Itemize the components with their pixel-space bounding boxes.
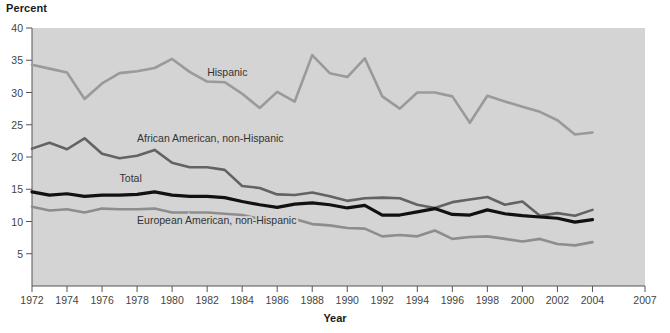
y-axis-tick-label: 15 — [11, 183, 23, 195]
x-axis-tick-label: 2007 — [633, 294, 657, 306]
series-label: European American, non-Hispanic — [137, 214, 296, 226]
x-axis-tick-label: 1978 — [125, 294, 149, 306]
x-axis-tick-label: 1980 — [160, 294, 184, 306]
x-axis-tick-label: 1986 — [266, 294, 290, 306]
y-axis-tick-label: 25 — [11, 119, 23, 131]
x-axis-tick-label: 1996 — [441, 294, 465, 306]
y-axis-tick-label: 20 — [11, 151, 23, 163]
x-axis-tick-label: 1976 — [90, 294, 114, 306]
y-axis-tick-label: 30 — [11, 87, 23, 99]
x-axis-tick-label: 1982 — [195, 294, 219, 306]
graduation-dropout-rate-line-chart: Percent 51015202530354019721974197619781… — [0, 0, 670, 333]
x-axis-tick-label: 2004 — [581, 294, 605, 306]
x-axis-tick-label: 1990 — [336, 294, 360, 306]
series-label: African American, non-Hispanic — [137, 132, 283, 144]
x-axis-tick-label: 1974 — [55, 294, 79, 306]
x-axis-title: Year — [0, 312, 670, 324]
series-label: Total — [120, 172, 142, 184]
x-axis-tick-label: 1984 — [230, 294, 254, 306]
x-axis-tick-label: 1972 — [20, 294, 44, 306]
y-axis-tick-label: 10 — [11, 216, 23, 228]
plot-canvas: 5101520253035401972197419761978198019821… — [0, 0, 670, 333]
y-axis-tick-label: 40 — [11, 22, 23, 34]
y-axis-tick-label: 5 — [17, 248, 23, 260]
x-axis-tick-label: 2002 — [546, 294, 570, 306]
x-axis-tick-label: 1998 — [476, 294, 500, 306]
x-axis-tick-label: 1994 — [406, 294, 430, 306]
x-axis-tick-label: 1988 — [301, 294, 325, 306]
y-axis-tick-label: 35 — [11, 54, 23, 66]
x-axis-tick-label: 1992 — [371, 294, 395, 306]
series-label: Hispanic — [207, 66, 247, 78]
x-axis-tick-label: 2000 — [511, 294, 535, 306]
